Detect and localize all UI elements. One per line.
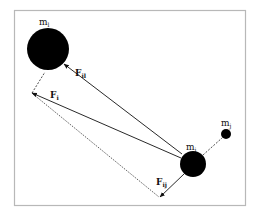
mass-body-mi	[180, 151, 206, 177]
force-diagram: ml mi mj Fil Fi Fij	[0, 0, 260, 215]
mass-body-ml	[27, 28, 69, 70]
mass-body-mj	[221, 129, 231, 139]
